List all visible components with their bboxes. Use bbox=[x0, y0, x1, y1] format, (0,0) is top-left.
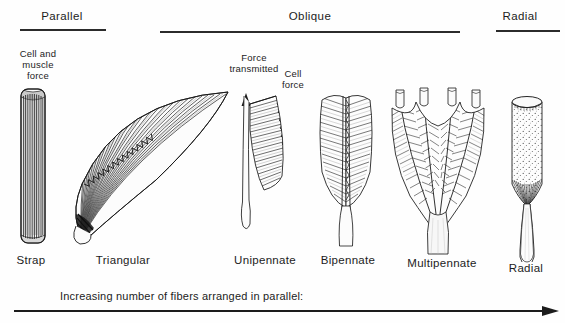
specimen-label-unipennate: Unipennate bbox=[217, 254, 313, 266]
annotation-line: Force bbox=[222, 52, 286, 63]
annotation-line: Cell and bbox=[5, 48, 71, 59]
specimen-label-multipennate: Multipennate bbox=[387, 257, 497, 269]
specimen-radial-illustration bbox=[498, 88, 560, 263]
annotation-line: Cell bbox=[275, 68, 311, 79]
group-rule-parallel bbox=[20, 29, 106, 31]
specimen-triangular-illustration bbox=[60, 88, 235, 250]
specimen-label-triangular: Triangular bbox=[75, 254, 171, 266]
specimen-label-radial: Radial bbox=[490, 262, 562, 274]
group-heading-parallel: Parallel bbox=[12, 10, 112, 22]
annotation-line: force bbox=[5, 70, 71, 81]
annotation-cell-and-muscle-force: Cell and muscle force bbox=[5, 48, 71, 81]
specimen-label-strap: Strap bbox=[0, 254, 62, 266]
group-heading-oblique: Oblique bbox=[260, 10, 360, 22]
specimen-label-bipennate: Bipennate bbox=[300, 254, 396, 266]
annotation-line: force bbox=[275, 79, 311, 90]
specimen-multipennate-illustration bbox=[386, 86, 496, 254]
muscle-fiber-architecture-figure: Parallel Oblique Radial Cell and muscle … bbox=[0, 0, 565, 323]
specimen-bipennate-illustration bbox=[312, 88, 384, 250]
specimen-strap-illustration bbox=[8, 86, 58, 246]
annotation-line: muscle bbox=[5, 59, 71, 70]
specimen-unipennate-illustration bbox=[230, 90, 310, 248]
figure-caption: Increasing number of fibers arranged in … bbox=[60, 290, 303, 302]
group-rule-oblique bbox=[160, 31, 460, 33]
increasing-fibers-arrow bbox=[14, 306, 559, 320]
group-rule-radial bbox=[496, 30, 560, 32]
annotation-cell-force: Cell force bbox=[275, 68, 311, 90]
group-heading-radial: Radial bbox=[480, 10, 560, 22]
